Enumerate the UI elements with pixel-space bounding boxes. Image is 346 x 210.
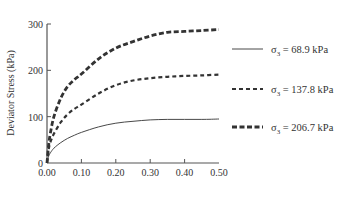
series-line-2 — [47, 75, 219, 164]
x-tick-label: 0.50 — [210, 167, 228, 178]
x-tick-label: 0.30 — [141, 167, 159, 178]
legend: σ3 = 68.9 kPaσ3 = 137.8 kPaσ3 = 206.7 kP… — [232, 44, 334, 136]
x-axis-ticks: 0.000.100.200.300.400.50 — [38, 159, 228, 178]
legend-label-3: σ3 = 206.7 kPa — [271, 122, 334, 136]
series-line-3 — [47, 30, 219, 163]
chart-axes: 0100200300 0.000.100.200.300.400.50 Devi… — [5, 19, 228, 178]
x-tick-label: 0.10 — [73, 167, 91, 178]
x-tick-label: 0.00 — [38, 167, 56, 178]
series-line-1 — [47, 119, 219, 163]
legend-label-2: σ3 = 137.8 kPa — [271, 84, 334, 98]
x-tick-label: 0.20 — [107, 167, 125, 178]
legend-label-1: σ3 = 68.9 kPa — [271, 44, 328, 58]
y-tick-label: 100 — [28, 112, 43, 123]
y-axis-title: Deviator Stress (kPa) — [5, 50, 17, 136]
y-tick-label: 300 — [28, 19, 43, 30]
stress-strain-chart: 0100200300 0.000.100.200.300.400.50 Devi… — [0, 0, 346, 210]
data-series — [47, 30, 219, 163]
y-tick-label: 200 — [28, 65, 43, 76]
x-tick-label: 0.40 — [176, 167, 194, 178]
